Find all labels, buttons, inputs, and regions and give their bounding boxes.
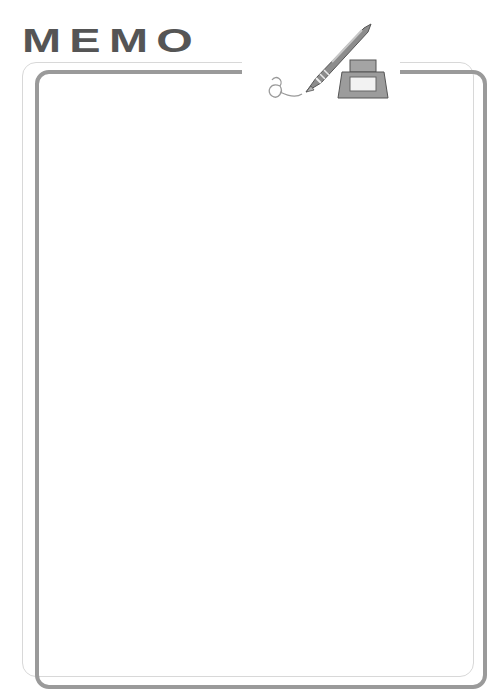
memo-title: MEMO bbox=[22, 20, 201, 60]
memo-writing-area[interactable] bbox=[50, 90, 470, 675]
